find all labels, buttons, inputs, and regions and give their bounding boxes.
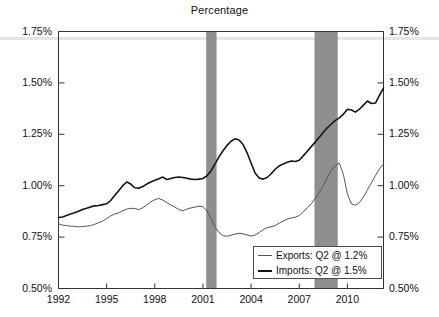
y-tick-label-right-5: 1.75% [389, 25, 439, 37]
x-tick-label-3: 2001 [178, 293, 228, 305]
x-tick-label-5: 2007 [274, 293, 324, 305]
y-tick-label-left-4: 1.50% [0, 76, 52, 88]
x-tick-label-4: 2004 [226, 293, 276, 305]
y-tick-label-left-5: 1.75% [0, 25, 52, 37]
x-tick-label-1: 1995 [82, 293, 132, 305]
y-tick-label-right-3: 1.25% [389, 127, 439, 139]
legend-item-imports: Imports: Q2 @ 1.5% [258, 263, 367, 278]
y-tick-label-right-4: 1.50% [389, 76, 439, 88]
x-tick-label-0: 1992 [34, 293, 84, 305]
y-tick-label-right-0: 0.50% [389, 282, 439, 294]
line-swatch-icon [258, 270, 272, 272]
recession-band-0 [206, 32, 216, 289]
y-tick-label-right-1: 0.75% [389, 230, 439, 242]
legend-label-exports: Exports: Q2 @ 1.2% [276, 250, 367, 261]
y-tick-label-left-1: 0.75% [0, 230, 52, 242]
x-tick-label-6: 2010 [322, 293, 372, 305]
y-tick-label-right-2: 1.00% [389, 179, 439, 191]
y-tick-label-left-3: 1.25% [0, 127, 52, 139]
percentage-line-chart: Percentage 0.50%0.75%1.00%1.25%1.50%1.75… [0, 0, 439, 317]
legend-label-imports: Imports: Q2 @ 1.5% [276, 265, 367, 276]
y-tick-label-left-2: 1.00% [0, 179, 52, 191]
legend: Exports: Q2 @ 1.2% Imports: Q2 @ 1.5% [253, 246, 382, 279]
legend-item-exports: Exports: Q2 @ 1.2% [258, 248, 367, 263]
x-tick-label-2: 1998 [130, 293, 180, 305]
line-swatch-icon [258, 255, 272, 256]
y-tick-label-left-0: 0.50% [0, 282, 52, 294]
